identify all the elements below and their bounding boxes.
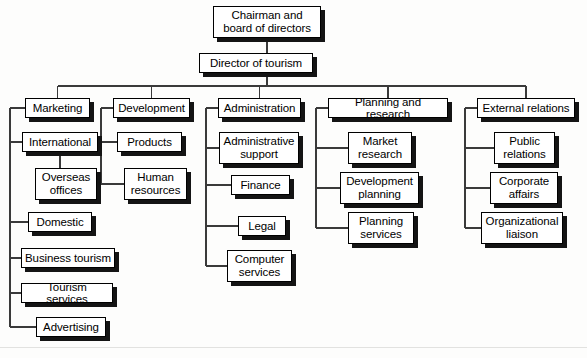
node-label: Administrativesupport [224,135,295,161]
node-label: Humanresources [131,171,181,197]
node-administrative-support[interactable]: Administrativesupport [219,132,299,164]
node-label: Products [127,136,172,149]
node-label: Legal [248,220,276,233]
node-business-tourism[interactable]: Business tourism [21,248,115,268]
node-label: Planning and research [332,96,444,121]
node-external-relations[interactable]: External relations [477,98,575,118]
node-label: Computerservices [235,253,285,279]
node-label: Finance [240,179,280,192]
node-label: Business tourism [25,252,111,265]
node-label: External relations [482,102,569,115]
node-label: International [29,136,91,149]
node-development[interactable]: Development [113,98,190,118]
node-label: Organizationalliaison [486,215,559,241]
node-public-relations[interactable]: Publicrelations [494,132,555,164]
node-label: Overseasoffices [42,171,90,197]
node-legal[interactable]: Legal [238,216,286,236]
node-products[interactable]: Products [117,132,182,152]
node-computer-services[interactable]: Computerservices [227,250,292,282]
node-market-research[interactable]: Marketresearch [348,132,412,164]
node-label: Publicrelations [503,135,546,161]
node-planning-research[interactable]: Planning and research [328,98,448,118]
node-organizational-liaison[interactable]: Organizationalliaison [481,212,563,244]
node-label: Domestic [36,216,83,229]
scan-artifact-line [0,347,587,348]
node-director[interactable]: Director of tourism [199,53,313,73]
node-advertising[interactable]: Advertising [36,317,106,337]
node-marketing[interactable]: Marketing [25,98,90,118]
node-label: Advertising [43,321,99,334]
node-label: Planningservices [359,215,403,241]
node-development-planning[interactable]: Developmentplanning [340,172,419,204]
node-tourism-services[interactable]: Tourism services [21,283,113,303]
node-human-resources[interactable]: Humanresources [124,168,187,200]
node-label: Chairman andboard of directors [223,9,311,35]
node-label: Director of tourism [210,57,302,70]
node-domestic[interactable]: Domestic [28,212,92,232]
node-corporate-affairs[interactable]: Corporateaffairs [490,172,558,204]
node-label: Developmentplanning [346,175,413,201]
node-finance[interactable]: Finance [231,175,290,195]
node-administration[interactable]: Administration [218,98,301,118]
org-chart-canvas: Chairman andboard of directorsDirector o… [0,0,587,358]
node-label: Administration [224,102,295,115]
node-label: Development [118,102,185,115]
node-planning-services[interactable]: Planningservices [348,212,414,244]
node-label: Marketresearch [358,135,402,161]
node-label: Corporateaffairs [499,175,549,201]
node-overseas-offices[interactable]: Overseasoffices [35,168,97,200]
node-chairman[interactable]: Chairman andboard of directors [213,6,321,38]
node-label: Marketing [33,102,83,115]
node-international[interactable]: International [22,132,98,152]
node-label: Tourism services [25,281,109,306]
